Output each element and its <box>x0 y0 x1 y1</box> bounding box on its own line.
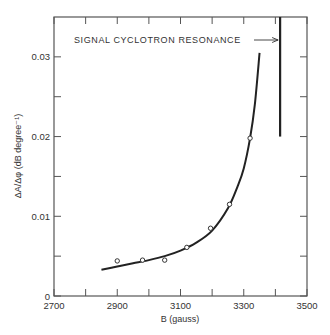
theory-curve <box>101 53 259 270</box>
x-axis-title: B (gauss) <box>161 314 200 324</box>
data-point <box>140 258 144 262</box>
x-tick-label: 3100 <box>170 300 191 311</box>
y-tick-label: 0 <box>45 291 50 302</box>
x-tick-labels: 27002900310033003500 <box>43 300 317 311</box>
data-point <box>248 136 252 140</box>
y-tick-label: 0.01 <box>32 211 51 222</box>
y-tick-labels: 00.010.020.03 <box>32 51 51 301</box>
x-tick-label: 3500 <box>296 300 317 311</box>
x-tick-label: 2900 <box>107 300 128 311</box>
arrow-icon <box>254 38 278 43</box>
data-point <box>115 259 119 263</box>
data-point <box>227 202 231 206</box>
x-tick-label: 2700 <box>43 300 64 311</box>
y-axis-title: ΔA/Δφ (dB degree⁻¹) <box>13 114 23 198</box>
data-point <box>208 226 212 230</box>
data-point <box>162 258 166 262</box>
chart: 27002900310033003500 00.010.020.03 SIGNA… <box>0 0 330 335</box>
data-point <box>185 245 189 249</box>
y-tick-label: 0.03 <box>32 51 51 62</box>
axis-ticks <box>54 17 307 296</box>
plot-frame <box>54 17 307 296</box>
x-tick-label: 3300 <box>233 300 254 311</box>
resonance-annotation: SIGNAL CYCLOTRON RESONANCE <box>74 35 241 45</box>
y-tick-label: 0.02 <box>32 131 51 142</box>
